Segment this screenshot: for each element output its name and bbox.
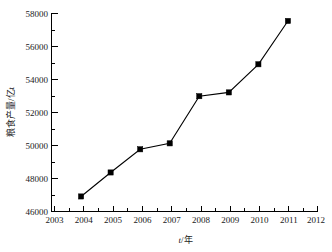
chart-container: 58000 56000 54000 52000 50000 48000 4600… <box>0 0 332 252</box>
x-tick-label: 2009 <box>221 215 240 225</box>
data-point-2007 <box>167 141 172 146</box>
data-point-2008 <box>197 94 202 99</box>
x-tick-label: 2010 <box>251 215 270 225</box>
data-point-2004 <box>78 194 83 199</box>
data-point-2009 <box>226 90 231 95</box>
y-tick-label: 50000 <box>26 141 49 151</box>
x-minor-ticks <box>69 208 303 212</box>
x-axis-title: t /年 <box>178 234 192 245</box>
y-tick-label: 52000 <box>26 108 49 118</box>
y-major-ticks <box>52 14 58 212</box>
x-tick-label: 2008 <box>192 215 211 225</box>
x-tick-label: 2012 <box>307 215 325 225</box>
y-tick-labels: 58000 56000 54000 52000 50000 48000 4600… <box>26 9 49 217</box>
line-chart: 58000 56000 54000 52000 50000 48000 4600… <box>0 0 332 252</box>
data-point-2011 <box>285 18 290 23</box>
x-tick-label: 2007 <box>163 215 182 225</box>
x-axis-title-unit: /年 <box>181 234 193 245</box>
data-series <box>78 18 290 199</box>
y-tick-label: 48000 <box>26 174 49 184</box>
axes <box>52 13 318 212</box>
data-point-2010 <box>256 62 261 67</box>
y-axis-title: 粮食产量/亿t <box>5 87 16 138</box>
x-tick-label: 2006 <box>133 215 152 225</box>
x-tick-labels: 2003 2004 2005 2006 2007 2008 2009 2010 … <box>46 215 326 225</box>
data-point-2006 <box>138 147 143 152</box>
x-tick-label: 2011 <box>280 215 298 225</box>
x-tick-label: 2004 <box>75 215 94 225</box>
y-tick-label: 58000 <box>26 9 49 19</box>
x-tick-label: 2003 <box>46 215 65 225</box>
y-tick-label: 56000 <box>26 42 49 52</box>
x-tick-label: 2005 <box>104 215 123 225</box>
series-markers <box>78 18 290 199</box>
y-tick-label: 54000 <box>26 75 49 85</box>
data-point-2005 <box>108 170 113 175</box>
